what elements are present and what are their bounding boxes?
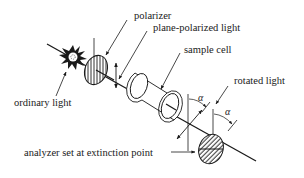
polarimeter-diagram: polarizer plane-polarized light sample c… — [0, 0, 304, 178]
sample-cell-cylinder — [127, 71, 183, 122]
label-ordinary-light: ordinary light — [14, 97, 72, 108]
polarizer-disc — [80, 50, 114, 90]
label-alpha-1: α — [198, 92, 204, 103]
label-polarizer: polarizer — [134, 10, 172, 21]
label-rotated-light: rotated light — [234, 75, 285, 86]
label-plane-polarized-light: plane-polarized light — [153, 22, 240, 33]
label-alpha-2: α — [225, 106, 231, 117]
label-sample-cell: sample cell — [184, 44, 232, 55]
light-source-starburst-icon — [59, 45, 87, 70]
analyzer-disc — [195, 130, 229, 168]
label-analyzer: analyzer set at extinction point — [24, 147, 153, 158]
